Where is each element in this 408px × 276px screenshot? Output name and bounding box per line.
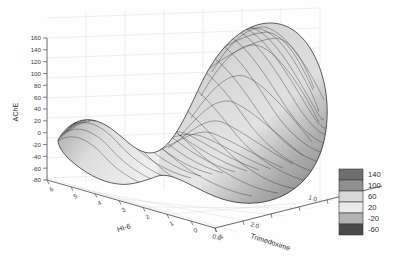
x-tick-3: 3 (120, 205, 127, 213)
z-tick-neg40: -40 (32, 153, 42, 160)
z-axis-label: AChE (11, 102, 20, 121)
x-axis: 6 5 4 3 2 1 0 -1 HI-6 (47, 180, 225, 241)
z-tick-80: 80 (34, 82, 41, 89)
z-tick-120: 120 (31, 58, 42, 65)
legend-label-60: 60 (368, 192, 376, 201)
y-tick-2: 2.0 (250, 220, 261, 229)
y-axis-label: Trimedoxime (249, 231, 291, 252)
z-tick-140: 140 (31, 46, 42, 53)
x-axis-label: HI-6 (116, 221, 132, 234)
z-tick-20: 20 (34, 117, 41, 124)
z-tick-40: 40 (34, 105, 41, 112)
z-axis-ticks (43, 38, 47, 180)
x-tick-0: 0 (192, 226, 199, 234)
surface-plot-figure: 160 140 120 100 80 60 40 20 0 -20 -40 -6… (0, 0, 408, 276)
legend: 140 100 60 20 -20 -60 (339, 169, 381, 235)
surface-3d (58, 23, 332, 203)
z-tick-100: 100 (31, 70, 42, 77)
z-tick-neg20: -20 (32, 141, 42, 148)
x-tick-5: 5 (72, 192, 79, 200)
y-tick-0: 0.0 (212, 232, 223, 241)
z-tick-160: 160 (31, 34, 42, 41)
legend-label-140: 140 (368, 170, 381, 179)
x-tick-2: 2 (144, 212, 151, 220)
legend-label-100: 100 (368, 181, 381, 190)
legend-label-neg20: -20 (368, 214, 379, 223)
z-axis: 160 140 120 100 80 60 40 20 0 -20 -40 -6… (11, 34, 47, 183)
x-tick-6: 6 (48, 185, 55, 193)
z-tick-neg80: -80 (32, 176, 42, 183)
legend-swatch-100 (339, 180, 363, 191)
z-tick-60: 60 (34, 94, 41, 101)
legend-swatch-neg60 (339, 224, 363, 235)
z-tick-neg60: -60 (32, 165, 42, 172)
legend-label-20: 20 (368, 203, 376, 212)
plot-canvas: 160 140 120 100 80 60 40 20 0 -20 -40 -6… (0, 0, 408, 276)
legend-swatch-neg20 (339, 213, 363, 224)
legend-label-neg60: -60 (368, 225, 379, 234)
x-tick-4: 4 (96, 199, 103, 207)
z-tick-0: 0 (38, 129, 42, 136)
x-tick-1: 1 (168, 219, 175, 227)
legend-swatch-140 (339, 169, 363, 180)
legend-swatch-20 (339, 202, 363, 213)
legend-swatch-60 (339, 191, 363, 202)
